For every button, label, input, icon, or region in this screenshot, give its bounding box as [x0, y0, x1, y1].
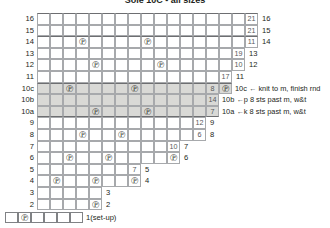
chart-cell	[128, 48, 141, 60]
chart-cell	[102, 141, 115, 153]
chart-cell	[76, 175, 89, 187]
chart-cell	[128, 152, 141, 164]
chart-cell	[76, 13, 89, 25]
row-label-right: 5	[145, 164, 149, 176]
chart-cell	[37, 36, 50, 48]
stitch-count: 6	[193, 129, 206, 141]
purl-stitch-symbol: ℗	[89, 106, 102, 118]
chart-note: 10c ← knit to m, finish rnd	[235, 83, 320, 95]
chart-cell	[115, 36, 128, 48]
chart-cell	[193, 25, 206, 37]
chart-cell	[89, 187, 102, 199]
chart-cell	[37, 175, 50, 187]
chart-cell	[154, 48, 167, 60]
chart-cell	[180, 83, 193, 95]
chart-cell	[89, 48, 102, 60]
legend-purl-symbol: ℗	[18, 212, 31, 224]
purl-stitch-symbol: ℗	[141, 36, 154, 48]
chart-cell	[50, 48, 63, 60]
row-label-left: 10b	[2, 94, 34, 106]
purl-stitch-symbol: ℗	[128, 83, 141, 95]
row-label-left: 10a	[2, 106, 34, 118]
chart-cell	[102, 129, 115, 141]
chart-cell	[37, 152, 50, 164]
chart-cell	[50, 106, 63, 118]
chart-cell	[37, 94, 50, 106]
chart-cell	[63, 36, 76, 48]
row-label-left: 6	[2, 152, 34, 164]
row-label-right: 8	[210, 129, 214, 141]
chart-cell	[102, 48, 115, 60]
chart-cell	[115, 106, 128, 118]
purl-stitch-symbol: ℗	[50, 175, 63, 187]
chart-cell	[50, 117, 63, 129]
purl-stitch-symbol: ℗	[219, 83, 232, 95]
chart-cell	[89, 71, 102, 83]
chart-cell	[141, 13, 154, 25]
chart-cell	[63, 59, 76, 71]
chart-cell	[50, 83, 63, 95]
chart-cell	[102, 164, 115, 176]
chart-cell	[37, 13, 50, 25]
chart-cell	[63, 117, 76, 129]
chart-cell	[206, 71, 219, 83]
chart-cell	[180, 94, 193, 106]
chart-cell	[63, 48, 76, 60]
chart-cell	[76, 187, 89, 199]
chart-cell	[89, 94, 102, 106]
chart-cell	[180, 36, 193, 48]
chart-cell	[89, 36, 102, 48]
chart-cell	[63, 141, 76, 153]
purl-stitch-symbol: ℗	[167, 152, 180, 164]
chart-cell	[37, 25, 50, 37]
stitch-count: 17	[219, 71, 232, 83]
chart-cell	[76, 94, 89, 106]
chart-cell	[50, 152, 63, 164]
chart-cell	[115, 59, 128, 71]
chart-cell	[89, 117, 102, 129]
stitch-count: 12	[193, 117, 206, 129]
chart-cell	[89, 129, 102, 141]
row-label-left: 11	[2, 71, 34, 83]
chart-cell	[102, 175, 115, 187]
row-label-right: 14	[262, 36, 270, 48]
chart-cell	[76, 48, 89, 60]
row-label-left: 5	[2, 164, 34, 176]
stitch-count: 8	[206, 83, 219, 95]
setup-cell	[44, 212, 57, 224]
row-label-right: 11	[236, 71, 244, 83]
chart-cell	[115, 25, 128, 37]
chart-cell	[76, 59, 89, 71]
chart-cell	[50, 199, 63, 211]
chart-cell	[128, 71, 141, 83]
chart-cell	[141, 59, 154, 71]
chart-note: 10a ←k 8 sts past m, w&t	[222, 106, 306, 118]
chart-cell	[154, 117, 167, 129]
purl-stitch-symbol: ℗	[76, 129, 89, 141]
chart-cell	[219, 36, 232, 48]
setup-cell	[70, 212, 83, 224]
chart-cell	[206, 25, 219, 37]
chart-cell	[37, 129, 50, 141]
chart-cell	[154, 129, 167, 141]
chart-cell	[63, 94, 76, 106]
chart-cell	[167, 106, 180, 118]
row-label-left: 7	[2, 141, 34, 153]
chart-cell	[167, 59, 180, 71]
chart-cell	[63, 25, 76, 37]
chart-cell	[63, 199, 76, 211]
chart-cell	[128, 36, 141, 48]
stitch-count: 10	[232, 59, 245, 71]
chart-cell	[193, 36, 206, 48]
chart-cell	[193, 83, 206, 95]
chart-cell	[37, 187, 50, 199]
setup-cell	[31, 212, 44, 224]
chart-cell	[89, 152, 102, 164]
chart-cell	[63, 129, 76, 141]
stitch-count: 21	[245, 13, 258, 25]
chart-cell	[115, 141, 128, 153]
chart-cell	[141, 48, 154, 60]
stitch-count: 11	[245, 36, 258, 48]
chart-cell	[115, 117, 128, 129]
chart-cell	[141, 94, 154, 106]
